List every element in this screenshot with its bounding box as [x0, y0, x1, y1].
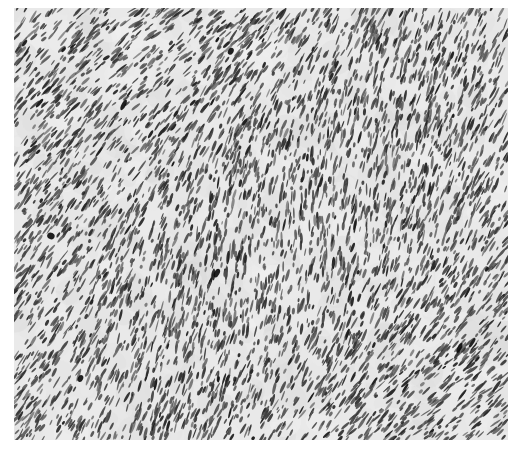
- spindle-cell-micrograph: [14, 8, 508, 440]
- micrograph-canvas: [14, 8, 508, 440]
